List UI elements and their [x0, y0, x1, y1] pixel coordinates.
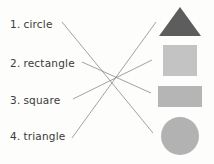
rectangle-shape[interactable]	[158, 86, 202, 107]
connector-line-square[interactable]	[73, 60, 152, 99]
word-item-number: 1.	[10, 18, 20, 30]
word-item-triangle[interactable]: 4.triangle	[10, 130, 66, 142]
triangle-shape[interactable]	[159, 7, 201, 36]
word-item-number: 2.	[10, 57, 20, 69]
connector-line-circle[interactable]	[62, 22, 153, 133]
word-item-label: triangle	[23, 130, 65, 142]
connector-line-triangle[interactable]	[72, 22, 156, 138]
word-item-number: 3.	[10, 94, 20, 106]
circle-shape[interactable]	[161, 117, 199, 155]
word-item-square[interactable]: 3.square	[10, 94, 60, 106]
word-item-rectangle[interactable]: 2.rectangle	[10, 57, 75, 69]
word-item-label: circle	[23, 18, 52, 30]
word-item-label: square	[23, 94, 60, 106]
matching-worksheet: 1.circle 2.rectangle 3.square 4.triangle	[0, 0, 214, 164]
square-shape[interactable]	[163, 45, 197, 76]
word-item-number: 4.	[10, 130, 20, 142]
word-item-label: rectangle	[23, 57, 74, 69]
word-item-circle[interactable]: 1.circle	[10, 18, 53, 30]
